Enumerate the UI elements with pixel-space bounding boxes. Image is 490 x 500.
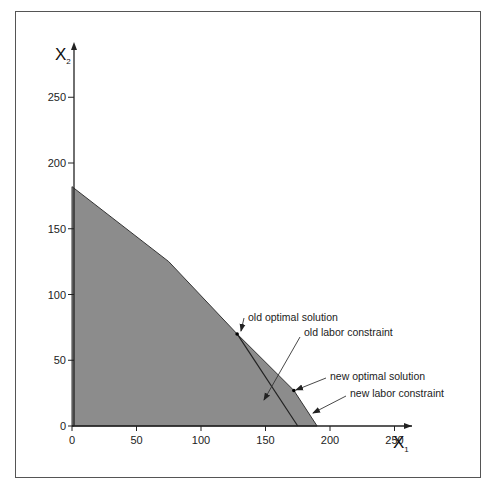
x-tick-label: 150 (256, 434, 274, 446)
y-tick-label: 100 (48, 289, 66, 301)
y-axis-title: X2 (55, 45, 71, 66)
new-optimal-solution-point (292, 389, 296, 393)
old-optimal-solution-point (235, 332, 239, 336)
y-tick-label: 50 (54, 354, 66, 366)
annotation-arrow-icon (241, 318, 244, 331)
annotation-new-labor-constraint: new labor constraint (350, 387, 444, 399)
x-tick-label: 200 (321, 434, 339, 446)
y-tick-label: 0 (60, 420, 66, 432)
y-ticks: 050100150200250 (48, 91, 74, 432)
annotation-new-optimal-solution: new optimal solution (330, 370, 425, 382)
annotation-arrow-icon (313, 396, 346, 413)
chart: 050100150200250 050100150200250 X1 X2 ol… (0, 0, 490, 500)
feasible-region (72, 187, 317, 426)
annotation-old-labor-constraint: old labor constraint (304, 326, 393, 338)
annotation-arrow-icon (296, 378, 326, 390)
x-tick-label: 50 (130, 434, 142, 446)
y-tick-label: 150 (48, 223, 66, 235)
x-axis-title: X1 (393, 433, 409, 454)
y-tick-label: 250 (48, 91, 66, 103)
x-ticks: 050100150200250 (69, 426, 404, 446)
x-tick-label: 100 (192, 434, 210, 446)
x-tick-label: 0 (69, 434, 75, 446)
annotation-old-optimal-solution: old optimal solution (248, 311, 338, 323)
y-axis-arrow-icon (71, 42, 77, 50)
x-axis-arrow-icon (404, 423, 412, 429)
y-tick-label: 200 (48, 157, 66, 169)
